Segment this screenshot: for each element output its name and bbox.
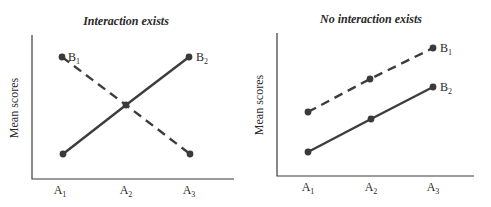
x-tick-a2: A2 (120, 183, 133, 199)
y-axis-label: Mean scores (7, 78, 21, 139)
data-point (367, 76, 374, 83)
data-point (430, 84, 437, 91)
chart-title: No interaction exists (319, 12, 422, 26)
series-label-b1: B1 (68, 50, 80, 66)
data-point (187, 151, 194, 158)
data-point (60, 151, 67, 158)
chart-title: Interaction exists (82, 14, 169, 28)
data-point (123, 102, 130, 109)
data-point (186, 54, 193, 61)
chart-no-interaction-exists: No interaction exists Mean scores B1 B2 … (252, 12, 474, 196)
x-tick-a3: A3 (427, 180, 440, 196)
series-label-b2: B2 (440, 80, 452, 96)
figure: Interaction exists Mean scores B1 B2 A1 … (0, 0, 491, 207)
chart-interaction-exists: Interaction exists Mean scores B1 B2 A1 … (7, 14, 234, 199)
series-label-b2: B2 (196, 50, 208, 66)
data-point (59, 54, 66, 61)
series-label-b1: B1 (440, 41, 452, 57)
data-point (305, 149, 312, 156)
x-tick-a2: A2 (365, 180, 378, 196)
x-tick-a3: A3 (183, 183, 196, 199)
x-tick-a1: A1 (54, 183, 67, 199)
x-tick-a1: A1 (302, 180, 315, 196)
data-point (305, 109, 312, 116)
y-axis-label: Mean scores (252, 75, 266, 136)
data-point (368, 116, 375, 123)
data-point (430, 45, 437, 52)
